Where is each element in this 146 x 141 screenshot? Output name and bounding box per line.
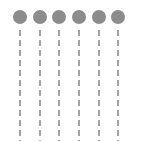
dotted-columns-diagram: [0, 0, 146, 141]
diagram-canvas: [0, 0, 146, 141]
circle-node-3: [52, 10, 66, 24]
circle-node-1: [13, 10, 27, 24]
circle-node-6: [111, 10, 125, 24]
circle-node-5: [92, 10, 106, 24]
circle-node-4: [72, 10, 86, 24]
circle-node-2: [33, 10, 47, 24]
